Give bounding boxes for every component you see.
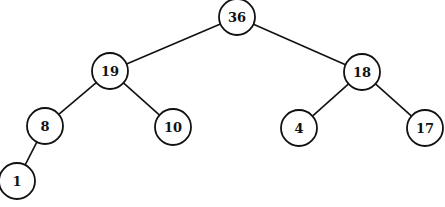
node-label: 4: [294, 121, 303, 136]
tree-node-18: 18: [344, 54, 380, 90]
tree-node-8: 8: [27, 108, 63, 144]
node-label: 19: [101, 64, 119, 79]
node-label: 17: [416, 121, 434, 136]
tree-node-36: 36: [219, 0, 255, 35]
tree-node-19: 19: [92, 53, 128, 89]
edge-19-10: [123, 83, 159, 115]
edge-8-1: [25, 142, 37, 165]
node-label: 36: [228, 10, 246, 25]
edge-36-19: [127, 24, 221, 64]
tree-diagram: 3619188104171: [0, 0, 445, 207]
tree-node-10: 10: [155, 109, 191, 145]
edge-36-18: [253, 24, 345, 65]
tree-node-1: 1: [0, 163, 35, 199]
edges-layer: [25, 24, 411, 165]
edge-18-4: [312, 84, 348, 116]
node-label: 1: [12, 174, 21, 189]
tree-node-17: 17: [407, 110, 443, 146]
edge-18-17: [375, 84, 411, 116]
edge-19-8: [59, 83, 97, 115]
tree-node-4: 4: [281, 110, 317, 146]
node-label: 18: [353, 65, 371, 80]
node-label: 8: [40, 119, 49, 134]
nodes-layer: 3619188104171: [0, 0, 443, 199]
node-label: 10: [164, 120, 182, 135]
